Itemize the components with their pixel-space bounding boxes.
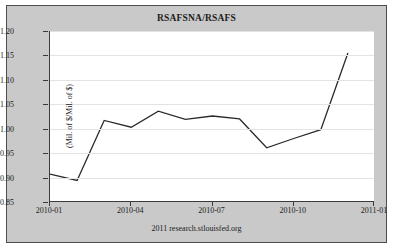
y-tick-label: 1.05: [0, 100, 14, 109]
y-tick-label: 1.10: [0, 75, 14, 84]
y-tick-label: 1.00: [0, 124, 14, 133]
y-tick-mark: [43, 104, 48, 105]
gridline: [50, 104, 374, 105]
y-tick-mark: [43, 202, 48, 203]
data-line-svg: [50, 31, 375, 202]
x-tick-label: 2010-07: [182, 206, 242, 215]
x-tick-label: 2010-04: [100, 206, 160, 215]
chart-figure: RSAFSNA/RSAFS (Mil. of $/Mil. of $) 0.85…: [6, 5, 387, 243]
gridline: [50, 153, 374, 154]
y-tick-label: 0.90: [0, 173, 14, 182]
gridline: [50, 80, 374, 81]
gridline: [50, 178, 374, 179]
y-tick-mark: [43, 80, 48, 81]
y-tick-mark: [43, 31, 48, 32]
y-tick-label: 1.20: [0, 27, 14, 36]
y-tick-mark: [43, 153, 48, 154]
plot-area: (Mil. of $/Mil. of $): [49, 31, 374, 202]
x-axis: 2010-012010-042010-072010-102011-01: [49, 202, 374, 222]
gridline: [50, 129, 374, 130]
x-tick-label: 2010-01: [19, 206, 79, 215]
y-tick-label: 0.85: [0, 198, 14, 207]
y-tick-mark: [43, 178, 48, 179]
source-note: 2011 research.stlouisfed.org: [7, 224, 386, 233]
series-line-rsafsna-rsafs: [50, 53, 348, 181]
x-tick-label: 2010-10: [263, 206, 323, 215]
x-tick-label: 2011-01: [344, 206, 393, 215]
y-tick-label: 0.95: [0, 149, 14, 158]
y-tick-label: 1.15: [0, 51, 14, 60]
gridline: [50, 55, 374, 56]
gridline: [50, 31, 374, 32]
y-axis-label: (Mil. of $/Mil. of $): [65, 41, 74, 191]
chart-title: RSAFSNA/RSAFS: [7, 13, 386, 23]
y-tick-mark: [43, 129, 48, 130]
y-tick-mark: [43, 55, 48, 56]
